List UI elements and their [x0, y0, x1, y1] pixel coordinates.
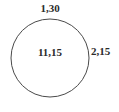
right-measurement-label: 2,15: [91, 45, 110, 57]
center-measurement-label: 11,15: [0, 46, 100, 58]
circle-outline: [11, 19, 89, 97]
circle-diagram: 1,30 11,15 2,15: [0, 0, 119, 112]
top-measurement-label: 1,30: [0, 2, 100, 14]
